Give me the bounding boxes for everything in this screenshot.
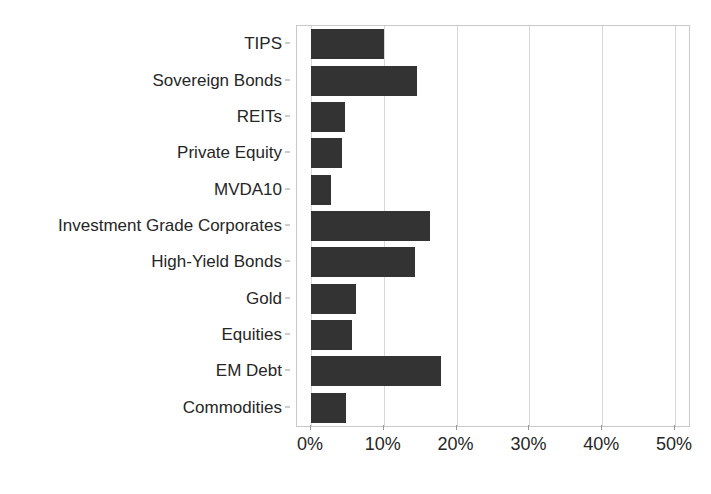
bar xyxy=(311,102,345,132)
y-axis-tick-label: MVDA10 xyxy=(214,180,282,197)
y-axis-tick-label: High-Yield Bonds xyxy=(151,253,282,270)
y-axis-tick-mark xyxy=(285,297,290,298)
x-axis-tick-label: 20% xyxy=(438,435,474,453)
x-axis-tick-mark xyxy=(674,425,675,430)
bar xyxy=(311,175,331,205)
bar xyxy=(311,29,384,59)
x-axis-labels: 0%10%20%30%40%50% xyxy=(296,429,690,469)
bar-row xyxy=(297,135,689,171)
y-axis-tick-mark xyxy=(285,43,290,44)
y-axis-tick-label: TIPS xyxy=(244,35,282,52)
y-axis-tick-mark xyxy=(285,188,290,189)
x-axis-tick-label: 50% xyxy=(656,435,692,453)
y-axis-tick-mark xyxy=(285,261,290,262)
x-axis-tick-mark xyxy=(310,425,311,430)
y-axis-tick-label: EM Debt xyxy=(216,362,282,379)
bar-row xyxy=(297,99,689,135)
y-axis-tick-label: Investment Grade Corporates xyxy=(58,217,282,234)
x-axis-tick-mark xyxy=(601,425,602,430)
bar-row xyxy=(297,208,689,244)
y-axis-tick-label: REITs xyxy=(237,107,282,124)
bar-row xyxy=(297,390,689,426)
y-axis-tick-label: Equities xyxy=(222,326,282,343)
bar-row xyxy=(297,26,689,62)
bar xyxy=(311,284,356,314)
y-axis-tick-mark xyxy=(285,370,290,371)
x-axis-tick-label: 10% xyxy=(365,435,401,453)
bar-row xyxy=(297,353,689,389)
bar xyxy=(311,211,430,241)
bar xyxy=(311,66,417,96)
bar xyxy=(311,320,352,350)
bar-row xyxy=(297,244,689,280)
x-axis-tick-label: 30% xyxy=(510,435,546,453)
y-axis-tick-mark xyxy=(285,152,290,153)
x-axis-tick-mark xyxy=(528,425,529,430)
y-axis-tick-label: Commodities xyxy=(183,398,282,415)
bar xyxy=(311,356,441,386)
bar-row xyxy=(297,317,689,353)
bar-row xyxy=(297,281,689,317)
plot-area xyxy=(296,25,690,427)
y-axis-tick-label: Private Equity xyxy=(177,144,282,161)
y-axis-tick-mark xyxy=(285,79,290,80)
y-axis-tick-label: Sovereign Bonds xyxy=(153,71,282,88)
y-axis-labels: TIPSSovereign BondsREITsPrivate EquityMV… xyxy=(0,25,290,427)
bar xyxy=(311,138,342,168)
y-axis-tick-mark xyxy=(285,406,290,407)
y-axis-tick-mark xyxy=(285,334,290,335)
bar-row xyxy=(297,171,689,207)
x-axis-tick-label: 40% xyxy=(583,435,619,453)
y-axis-tick-mark xyxy=(285,115,290,116)
x-axis-tick-mark xyxy=(383,425,384,430)
x-axis-tick-label: 0% xyxy=(297,435,323,453)
bar xyxy=(311,247,415,277)
bar-row xyxy=(297,62,689,98)
y-axis-tick-mark xyxy=(285,225,290,226)
x-axis-tick-mark xyxy=(456,425,457,430)
y-axis-tick-label: Gold xyxy=(246,289,282,306)
bar-chart: TIPSSovereign BondsREITsPrivate EquityMV… xyxy=(0,0,711,494)
bars-container xyxy=(297,26,689,426)
bar xyxy=(311,393,346,423)
